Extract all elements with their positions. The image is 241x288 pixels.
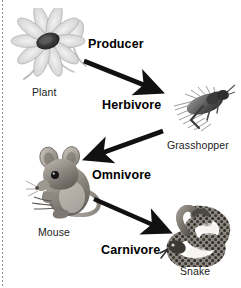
organism-caption-grasshopper: Grasshopper <box>167 139 229 151</box>
organism-mouse: Mouse <box>24 145 108 223</box>
food-chain-diagram: Plant <box>0 0 241 288</box>
grasshopper-icon <box>165 76 235 136</box>
flower-icon <box>10 8 94 84</box>
organism-snake: Snake <box>157 205 235 267</box>
dotted-margin-rule <box>2 0 3 288</box>
organism-plant: Plant <box>10 8 94 84</box>
organism-caption-snake: Snake <box>180 265 210 277</box>
role-label-producer: Producer <box>88 37 144 51</box>
mouse-icon <box>24 145 108 223</box>
role-label-carnivore: Carnivore <box>101 243 160 257</box>
arrow-plant-to-grasshopper <box>84 61 159 91</box>
role-label-omnivore: Omnivore <box>92 168 151 182</box>
organism-grasshopper: Grasshopper <box>165 76 235 136</box>
role-label-herbivore: Herbivore <box>102 98 161 112</box>
snake-icon <box>157 205 235 267</box>
organism-caption-mouse: Mouse <box>38 226 70 238</box>
organism-caption-plant: Plant <box>32 86 56 98</box>
